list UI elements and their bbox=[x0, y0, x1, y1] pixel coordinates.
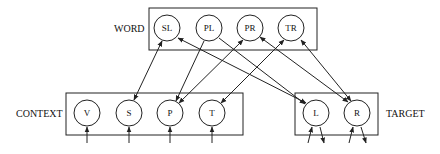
node-label: PR bbox=[244, 23, 255, 33]
network-diagram: WORD CONTEXT TARGET SL PL PR TR V S bbox=[0, 0, 440, 154]
node-pr: PR bbox=[237, 15, 263, 41]
node-v: V bbox=[74, 100, 100, 126]
node-s: S bbox=[116, 100, 142, 126]
node-label: R bbox=[354, 108, 360, 118]
node-label: T bbox=[209, 108, 215, 118]
context-label: CONTEXT bbox=[16, 108, 63, 119]
node-tr: TR bbox=[278, 15, 304, 41]
node-sl: SL bbox=[154, 15, 180, 41]
node-label: V bbox=[84, 108, 91, 118]
node-label: TR bbox=[285, 23, 297, 33]
node-r: R bbox=[344, 100, 370, 126]
word-label: WORD bbox=[114, 23, 145, 34]
edge-pl-l bbox=[219, 38, 305, 104]
node-label: PL bbox=[204, 23, 215, 33]
node-label: SL bbox=[162, 23, 173, 33]
edge-tr-r bbox=[301, 40, 351, 101]
node-l: L bbox=[303, 100, 329, 126]
node-label: S bbox=[126, 108, 131, 118]
node-t: T bbox=[199, 100, 225, 126]
target-label: TARGET bbox=[386, 108, 425, 119]
node-label: P bbox=[167, 108, 172, 118]
node-p: P bbox=[157, 100, 183, 126]
edge-sl-s bbox=[134, 41, 162, 100]
node-pl: PL bbox=[196, 15, 222, 41]
edge-pr-r bbox=[260, 37, 348, 102]
node-label: L bbox=[313, 108, 319, 118]
edge-tr-t bbox=[221, 40, 284, 103]
